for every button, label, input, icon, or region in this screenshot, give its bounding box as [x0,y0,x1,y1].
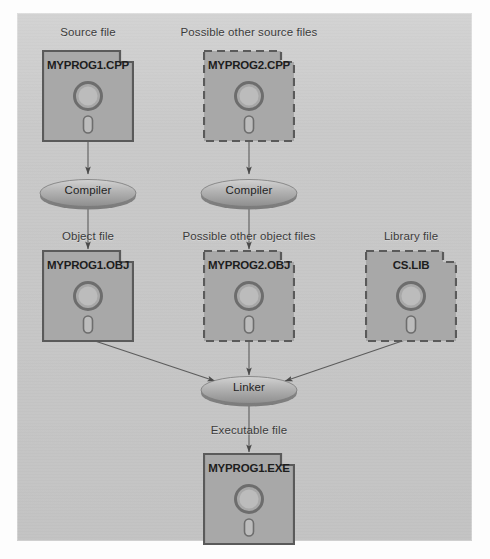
disk-myprog1-exe[interactable]: MYPROG1.EXE [203,453,295,545]
caption-source-file: Source file [60,26,115,38]
process-compiler-left[interactable]: Compiler [38,177,138,211]
floppy-icon [42,50,134,142]
caption-possible-other-source-files: Possible other source files [181,26,318,38]
floppy-icon [203,250,295,342]
disk-myprog2-cpp[interactable]: MYPROG2.CPP [203,50,295,142]
figure-root: Source file Possible other source files … [0,0,490,559]
arrow-obj1-to-linker [86,338,215,381]
arrow-lib-to-linker [285,338,411,381]
diagram-stage: Source file Possible other source files … [0,0,490,559]
process-compiler-right[interactable]: Compiler [199,177,299,211]
disk-cs-lib[interactable]: CS.LIB [365,250,457,342]
floppy-icon [42,250,134,342]
caption-library-file: Library file [384,230,438,242]
disk-myprog1-cpp[interactable]: MYPROG1.CPP [42,50,134,142]
caption-possible-other-object-files: Possible other object files [182,230,315,242]
disk-myprog1-obj[interactable]: MYPROG1.OBJ [42,250,134,342]
floppy-icon [203,50,295,142]
process-linker[interactable]: Linker [199,374,299,408]
floppy-icon [365,250,457,342]
disk-myprog2-obj[interactable]: MYPROG2.OBJ [203,250,295,342]
caption-executable-file: Executable file [211,424,287,436]
caption-object-file: Object file [62,230,114,242]
floppy-icon [203,453,295,545]
